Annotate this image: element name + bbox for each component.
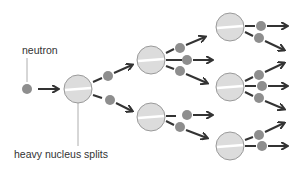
nucleus-label: heavy nucleus splits bbox=[14, 148, 108, 160]
nucleus-gen2-upper bbox=[137, 46, 165, 74]
nucleus-gen3-middle bbox=[216, 73, 244, 101]
nucleus-gen2-lower bbox=[137, 103, 165, 131]
neutron-label: neutron bbox=[22, 44, 58, 56]
incoming-neutron bbox=[22, 84, 32, 94]
nucleus-gen3-bottom bbox=[216, 132, 244, 160]
heavy-nucleus bbox=[64, 75, 92, 103]
nucleus-gen3-top bbox=[216, 13, 244, 41]
